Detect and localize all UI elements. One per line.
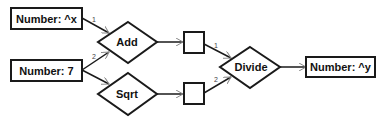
node-input-x[interactable]: Number: ^x	[11, 8, 82, 29]
node-output-y-label: Number: ^y	[310, 61, 372, 73]
node-result-add[interactable]	[184, 32, 204, 53]
port-label-add-1: 1	[92, 16, 96, 23]
node-sqrt-label: Sqrt	[116, 88, 138, 100]
node-input-7[interactable]: Number: 7	[11, 60, 82, 81]
node-input-x-label: Number: ^x	[16, 13, 78, 25]
node-divide[interactable]: Divide	[220, 47, 280, 88]
node-sqrt[interactable]: Sqrt	[98, 73, 157, 115]
port-label-divide-2: 2	[214, 76, 218, 83]
node-result-sqrt[interactable]	[184, 83, 204, 104]
node-add-label: Add	[116, 36, 137, 48]
dataflow-diagram: 1 2 1 2 Number: ^x Number: 7 Add Sqrt Di…	[0, 0, 387, 121]
port-label-add-2: 2	[92, 53, 96, 60]
port-label-divide-1: 1	[214, 42, 218, 49]
node-add[interactable]: Add	[98, 22, 157, 63]
node-divide-label: Divide	[234, 61, 267, 73]
node-output-y[interactable]: Number: ^y	[306, 57, 375, 77]
node-input-7-label: Number: 7	[19, 65, 73, 77]
edge-7-to-sqrt	[82, 70, 109, 84]
